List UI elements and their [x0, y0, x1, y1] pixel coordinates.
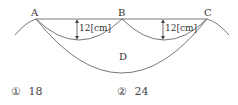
- dimension-label-right: 12[cm]: [165, 23, 197, 33]
- right-outer-arc: [207, 19, 229, 35]
- choice-1-marker: ①: [11, 85, 21, 98]
- choice-1-value: 18: [29, 85, 43, 98]
- choice-2-marker: ②: [117, 85, 127, 98]
- choice-2-value: 24: [135, 85, 149, 98]
- left-outer-arc: [15, 19, 36, 35]
- label-b: B: [118, 7, 125, 18]
- choice-2[interactable]: ② 24: [117, 85, 149, 98]
- label-d: D: [119, 51, 127, 62]
- dimension-label-left: 12[cm]: [79, 23, 111, 33]
- label-c: C: [204, 7, 212, 18]
- choice-1[interactable]: ① 18: [11, 85, 43, 98]
- label-a: A: [31, 7, 38, 18]
